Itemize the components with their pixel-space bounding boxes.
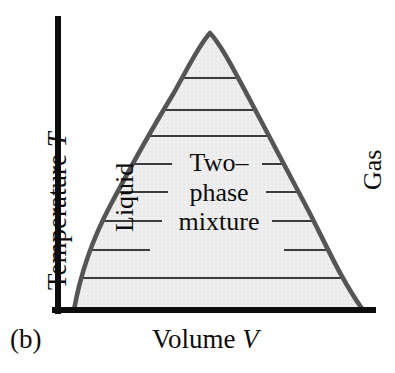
x-axis-label-text: Volume	[152, 324, 236, 354]
panel-label: (b)	[10, 326, 41, 353]
y-axis-label-symbol: T	[42, 132, 72, 147]
x-axis-label-symbol: V	[242, 324, 259, 354]
liquid-region-label: Liquid	[112, 163, 138, 232]
y-axis-label: Temperature T	[44, 132, 71, 290]
gas-region-label: Gas	[360, 150, 386, 190]
phase-diagram-figure: Temperature T Volume V Liquid Gas Two– p…	[0, 0, 395, 373]
two-phase-mixture-line-3: mixture	[146, 207, 292, 237]
two-phase-mixture-line-2: phase	[146, 178, 292, 208]
two-phase-mixture-line-1: Two–	[146, 148, 292, 178]
x-axis-label: Volume V	[152, 326, 259, 353]
y-axis-label-text: Temperature	[42, 154, 72, 290]
two-phase-mixture-label: Two– phase mixture	[146, 148, 292, 237]
